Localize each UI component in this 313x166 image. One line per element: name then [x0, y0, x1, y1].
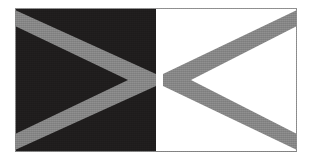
flag-figure: [15, 8, 297, 152]
image-canvas: [0, 0, 313, 166]
flag-svg: [15, 8, 297, 152]
